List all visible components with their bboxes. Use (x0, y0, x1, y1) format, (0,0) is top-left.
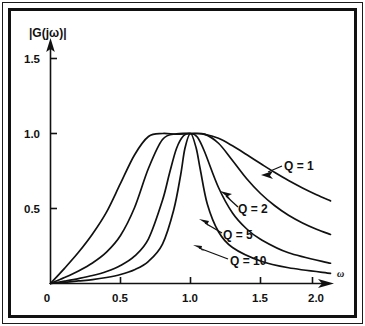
y-axis (46, 38, 57, 284)
curve-q-1 (51, 133, 331, 283)
y-axis-title: |G(jω)| (29, 26, 67, 40)
x-ticklabel-0p5: 0.5 (112, 292, 129, 304)
leader-q-5 (205, 223, 222, 233)
leader-arrow-q-1 (261, 171, 273, 179)
y-ticklabel-1p0: 1.0 (24, 128, 40, 140)
annotation-q-2: Q = 2 (238, 202, 268, 216)
frequency-response-plot: |G(jω)| ω 1.5 1.0 0.5 0 0.5 1.0 1.5 2.0 (0, 0, 365, 326)
curve-q-10 (51, 133, 331, 283)
y-ticklabel-0p5: 0.5 (24, 203, 41, 215)
x-axis-title: ω (337, 268, 344, 279)
leader-arrow-q-10 (193, 245, 205, 251)
leader-q-10 (199, 248, 228, 259)
x-ticklabel-0: 0 (44, 292, 50, 304)
x-axis (51, 277, 335, 288)
curve-q-2 (51, 133, 331, 283)
curve-q-5 (51, 133, 331, 283)
y-ticklabel-1p5: 1.5 (24, 53, 41, 65)
x-ticklabel-2p0: 2.0 (308, 292, 324, 304)
annotation-q-10: Q = 10 (230, 254, 267, 268)
curve-group (51, 133, 331, 283)
annotation-q-5: Q = 5 (223, 228, 253, 242)
leader-arrow-q-5 (199, 219, 211, 227)
figure-container: |G(jω)| ω 1.5 1.0 0.5 0 0.5 1.0 1.5 2.0 (0, 0, 365, 326)
annotation-q-1: Q = 1 (284, 159, 314, 173)
x-ticklabel-1p0: 1.0 (182, 292, 198, 304)
x-ticklabel-1p5: 1.5 (252, 292, 269, 304)
